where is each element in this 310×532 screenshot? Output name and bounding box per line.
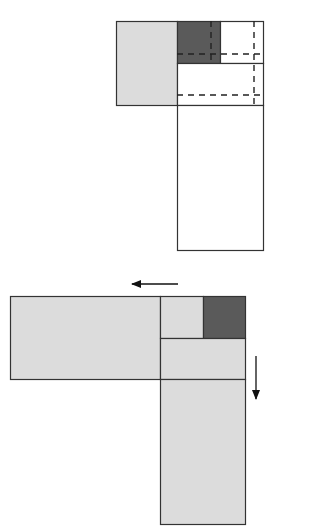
middle-gray-block: [161, 339, 246, 380]
diagram-canvas: [0, 0, 310, 532]
dark-corner-block: [204, 297, 246, 339]
dark-corner-block: [178, 22, 221, 64]
left-gray-block: [117, 22, 178, 106]
wide-left-gray-block: [11, 297, 161, 380]
small-gray-block: [161, 297, 204, 339]
top-panel: [117, 21, 264, 251]
tall-white-block: [178, 106, 264, 251]
middle-white-block: [178, 64, 264, 106]
bottom-panel: [11, 284, 257, 525]
tall-bottom-gray-block: [161, 380, 246, 525]
top-right-white-block: [221, 22, 264, 64]
